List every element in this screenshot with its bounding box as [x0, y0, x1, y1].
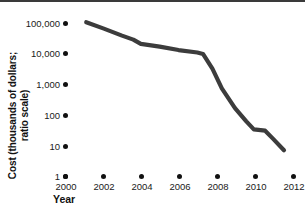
x-tick-dot-2004: [139, 174, 144, 179]
x-tick-dot-2002: [101, 174, 106, 179]
y-tick-label-10000: 10,000: [31, 49, 60, 59]
x-tick-label-2010: 2010: [237, 181, 275, 192]
x-tick-label-2004: 2004: [123, 181, 161, 192]
x-tick-dot-2012: [291, 174, 296, 179]
cost-series-line: [86, 22, 284, 150]
x-axis-title: Year: [53, 193, 75, 205]
y-tick-label-100000: 100,000: [26, 19, 60, 29]
y-tick-label-1000: 1,000: [36, 80, 60, 90]
y-tick-label-100: 100: [44, 111, 60, 121]
x-tick-label-2000: 2000: [47, 181, 85, 192]
y-axis-title-line1: Cost (thousands of dollars;: [7, 52, 18, 179]
x-tick-label-2008: 2008: [199, 181, 237, 192]
x-tick-dot-2010: [253, 174, 258, 179]
x-tick-label-2006: 2006: [161, 181, 199, 192]
y-axis-title-line2: ratio scale): [18, 90, 29, 142]
y-tick-dot-10000: [63, 51, 68, 56]
y-tick-dot-100000: [63, 21, 68, 26]
y-tick-dot-1000: [63, 82, 68, 87]
y-tick-dot-10: [63, 144, 68, 149]
plot-area: Cost (thousands of dollars; ratio scale)…: [0, 0, 305, 219]
x-tick-dot-2000: [63, 174, 68, 179]
y-tick-label-10: 10: [49, 142, 60, 152]
y-axis-title: Cost (thousands of dollars; ratio scale): [7, 36, 30, 196]
chart-figure: Cost (thousands of dollars; ratio scale)…: [0, 0, 305, 219]
x-tick-label-2002: 2002: [85, 181, 123, 192]
x-tick-dot-2006: [177, 174, 182, 179]
x-tick-label-2012: 2012: [275, 181, 305, 192]
y-tick-dot-100: [63, 113, 68, 118]
x-tick-dot-2008: [215, 174, 220, 179]
